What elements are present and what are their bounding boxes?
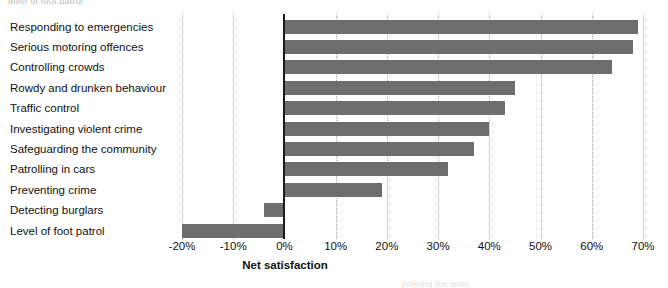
x-tick-label: 30%: [427, 240, 450, 252]
x-tick-label: 40%: [478, 240, 501, 252]
bar: [284, 122, 489, 136]
x-axis-tick-labels: -20%-10%0%10%20%30%40%50%60%70%: [182, 240, 643, 256]
category-label: Safeguarding the community: [10, 143, 156, 155]
bar: [284, 40, 632, 54]
x-tick-label: -10%: [220, 240, 247, 252]
bar: [284, 183, 381, 197]
gridline-neg10: [233, 14, 235, 239]
category-label: Level of foot patrol: [10, 225, 105, 237]
category-label: Traffic control: [10, 102, 79, 114]
bar: [284, 81, 515, 95]
bottom-clipped-text: policing the seas: [402, 279, 469, 288]
category-label-column: Responding to emergenciesSerious motorin…: [0, 14, 180, 239]
plot-area: [182, 14, 643, 239]
category-label: Detecting burglars: [10, 204, 103, 216]
bar: [182, 224, 284, 238]
x-tick-label: 70%: [631, 240, 654, 252]
category-label: Rowdy and drunken behaviour: [10, 82, 166, 94]
category-label: Responding to emergencies: [10, 21, 153, 33]
zero-axis-line: [283, 14, 285, 239]
category-label: Investigating violent crime: [10, 123, 142, 135]
x-tick-label: 20%: [375, 240, 398, 252]
bar: [284, 101, 504, 115]
x-tick-label: 50%: [529, 240, 552, 252]
category-label: Patrolling in cars: [10, 163, 95, 175]
x-tick-label: 60%: [580, 240, 603, 252]
bar: [284, 142, 474, 156]
bar: [264, 203, 284, 217]
x-tick-label: -20%: [169, 240, 196, 252]
bar: [284, 20, 637, 34]
category-label: Preventing crime: [10, 184, 96, 196]
top-clipped-text: level of foot patrol: [8, 0, 83, 4]
gridline-70: [643, 14, 645, 239]
category-label: Serious motoring offences: [10, 41, 143, 53]
x-axis-title: Net satisfaction: [242, 259, 328, 271]
net-satisfaction-bar-chart: level of foot patrol Responding to emerg…: [0, 0, 668, 288]
gridline-neg20: [182, 14, 184, 239]
x-tick-label: 10%: [324, 240, 347, 252]
bar: [284, 162, 448, 176]
category-label: Controlling crowds: [10, 61, 105, 73]
x-tick-label: 0%: [276, 240, 293, 252]
bar: [284, 60, 612, 74]
